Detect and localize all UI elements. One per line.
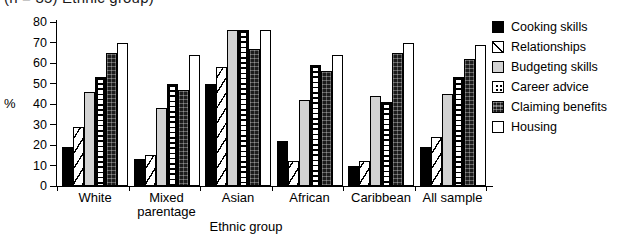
bar-group-bars bbox=[420, 22, 486, 186]
legend-swatch-icon bbox=[492, 41, 504, 53]
y-axis-tick bbox=[50, 42, 56, 43]
bar bbox=[238, 30, 249, 186]
x-axis-tick bbox=[200, 186, 201, 191]
legend-item-label: Career advice bbox=[511, 81, 589, 94]
bar bbox=[156, 108, 167, 186]
y-axis-tick-label: 30 bbox=[33, 119, 47, 132]
bar bbox=[403, 43, 414, 187]
bar bbox=[442, 94, 453, 186]
y-axis-tick-label: 50 bbox=[33, 78, 47, 91]
legend-swatch-icon bbox=[492, 81, 504, 93]
x-axis-line bbox=[56, 186, 493, 187]
legend-item-label: Claiming benefits bbox=[511, 101, 607, 114]
bar-group-bars bbox=[348, 22, 414, 186]
bar bbox=[288, 161, 299, 186]
x-axis-tick bbox=[486, 186, 487, 191]
legend-item: Budgeting skills bbox=[492, 57, 621, 77]
bar-group-bars bbox=[205, 22, 271, 186]
bar bbox=[189, 55, 200, 186]
y-axis-tick bbox=[50, 63, 56, 64]
bar bbox=[475, 45, 486, 186]
bar bbox=[260, 30, 271, 186]
y-axis-tick-label: 10 bbox=[33, 160, 47, 173]
chart-legend: Cooking skillsRelationshipsBudgeting ski… bbox=[492, 17, 621, 137]
bar bbox=[106, 53, 117, 186]
y-axis-tick-label: 20 bbox=[33, 139, 47, 152]
bar bbox=[431, 137, 442, 186]
bar bbox=[84, 92, 95, 186]
y-axis-tick-label: 60 bbox=[33, 57, 47, 70]
legend-swatch-icon bbox=[492, 21, 504, 33]
y-axis-tick bbox=[50, 186, 56, 187]
y-axis-tick-label: 40 bbox=[33, 98, 47, 111]
bar bbox=[167, 84, 178, 187]
legend-item: Claiming benefits bbox=[492, 97, 621, 117]
y-axis-tick-label: 70 bbox=[33, 37, 47, 50]
y-axis-tick-label: 80 bbox=[33, 16, 47, 29]
bar-group-bars bbox=[62, 22, 128, 186]
bar-group-bars bbox=[134, 22, 200, 186]
bar bbox=[73, 127, 84, 186]
bar bbox=[420, 147, 431, 186]
bar bbox=[145, 155, 156, 186]
legend-item-label: Housing bbox=[511, 121, 557, 134]
bar bbox=[453, 77, 464, 186]
y-axis-tick bbox=[50, 83, 56, 84]
bar bbox=[464, 59, 475, 186]
bar bbox=[178, 90, 189, 186]
legend-item: Housing bbox=[492, 117, 621, 137]
y-axis-tick bbox=[50, 104, 56, 105]
legend-swatch-icon bbox=[492, 101, 504, 113]
bar-chart-figure: (n = 35) Ethnic group) 01020304050607080… bbox=[0, 0, 621, 236]
legend-swatch-icon bbox=[492, 61, 504, 73]
bar bbox=[216, 67, 227, 186]
y-axis-tick bbox=[50, 22, 56, 23]
x-axis-tick bbox=[415, 186, 416, 191]
x-axis-title: Ethnic group bbox=[0, 219, 492, 234]
y-axis-tick bbox=[50, 145, 56, 146]
x-axis-group-label: All sample bbox=[403, 191, 503, 205]
x-axis-tick bbox=[129, 186, 130, 191]
bar bbox=[348, 166, 359, 187]
bar bbox=[359, 161, 370, 186]
bar bbox=[205, 84, 216, 187]
bar bbox=[299, 100, 310, 186]
y-axis-tick-labels: 01020304050607080 bbox=[0, 0, 47, 236]
bar bbox=[249, 49, 260, 186]
x-axis-tick bbox=[57, 186, 58, 191]
legend-item: Relationships bbox=[492, 37, 621, 57]
y-axis-title: % bbox=[4, 96, 16, 111]
bar bbox=[310, 65, 321, 186]
bar-group-bars bbox=[277, 22, 343, 186]
bar bbox=[321, 71, 332, 186]
bar bbox=[332, 55, 343, 186]
y-axis-tick bbox=[50, 124, 56, 125]
x-axis-tick bbox=[343, 186, 344, 191]
bar bbox=[117, 43, 128, 187]
legend-item: Career advice bbox=[492, 77, 621, 97]
bar bbox=[381, 102, 392, 186]
legend-swatch-icon bbox=[492, 121, 504, 133]
legend-item-label: Cooking skills bbox=[511, 21, 587, 34]
bar bbox=[370, 96, 381, 186]
bar bbox=[62, 147, 73, 186]
x-axis-tick bbox=[272, 186, 273, 191]
bar bbox=[134, 159, 145, 186]
legend-item-label: Budgeting skills bbox=[511, 61, 598, 74]
bar bbox=[277, 141, 288, 186]
bar bbox=[95, 77, 106, 186]
bar bbox=[392, 53, 403, 186]
legend-item: Cooking skills bbox=[492, 17, 621, 37]
y-axis-tick bbox=[50, 165, 56, 166]
legend-item-label: Relationships bbox=[511, 41, 586, 54]
bar bbox=[227, 30, 238, 186]
